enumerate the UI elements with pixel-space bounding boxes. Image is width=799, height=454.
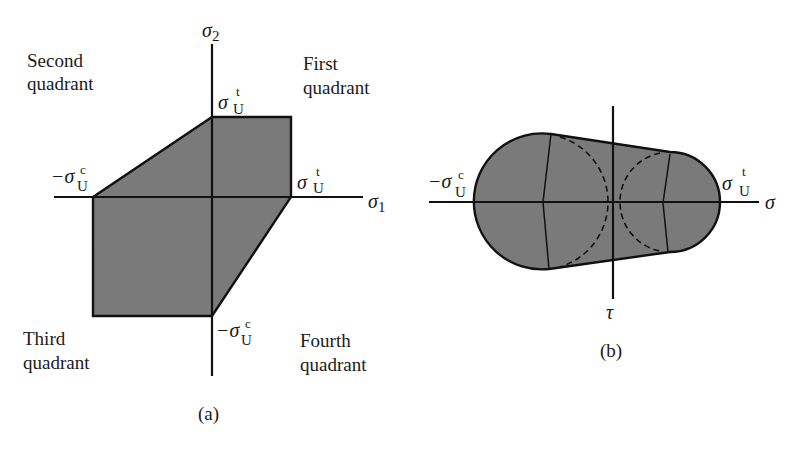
tick-label-x-right: σ t U	[297, 164, 324, 196]
svg-text:−σ: −σ	[216, 319, 240, 341]
svg-text:U: U	[313, 180, 324, 196]
sigma2-axis-label: σ2	[202, 19, 219, 44]
tick-label-y-top: σ t U	[218, 84, 244, 117]
svg-text:σ: σ	[218, 91, 229, 113]
tick-label-left: −σ c U	[428, 167, 466, 200]
panel-a-caption: (a)	[198, 403, 219, 425]
svg-text:U: U	[455, 184, 466, 200]
sigma1-axis-label: σ1	[368, 190, 385, 215]
svg-text:−σ: −σ	[428, 170, 452, 192]
svg-text:U: U	[77, 178, 88, 194]
svg-text:U: U	[241, 332, 252, 348]
panel-b: σ τ −σ c U σ t U (b)	[428, 106, 776, 362]
tick-label-x-left: −σ c U	[51, 162, 88, 194]
svg-text:c: c	[245, 316, 251, 331]
panel-a: σ2 σ1 σ t U σ t U −σ c U −σ c U Second	[23, 19, 385, 425]
svg-text:c: c	[458, 167, 464, 182]
safe-region-polygon	[93, 117, 291, 316]
svg-text:−σ: −σ	[51, 165, 75, 187]
tick-label-y-bottom: −σ c U	[216, 316, 252, 348]
figure-canvas: σ2 σ1 σ t U σ t U −σ c U −σ c U Second	[0, 0, 799, 454]
svg-text:t: t	[236, 84, 240, 99]
tick-label-right: σ t U	[722, 164, 750, 199]
quadrant-label-third: Third quadrant	[23, 328, 90, 373]
svg-text:t: t	[316, 164, 320, 179]
svg-text:σ: σ	[297, 171, 308, 193]
panel-b-caption: (b)	[600, 340, 622, 362]
quadrant-label-second: Second quadrant	[27, 50, 94, 94]
quadrant-label-first: First quadrant	[303, 53, 370, 98]
svg-text:c: c	[80, 162, 86, 177]
svg-text:U: U	[739, 183, 750, 199]
quadrant-label-fourth: Fourth quadrant	[300, 330, 367, 375]
sigma-axis-label: σ	[765, 191, 776, 213]
svg-text:U: U	[233, 101, 244, 117]
svg-text:σ: σ	[722, 172, 733, 194]
svg-text:t: t	[742, 164, 746, 179]
tau-axis-label: τ	[606, 301, 614, 323]
